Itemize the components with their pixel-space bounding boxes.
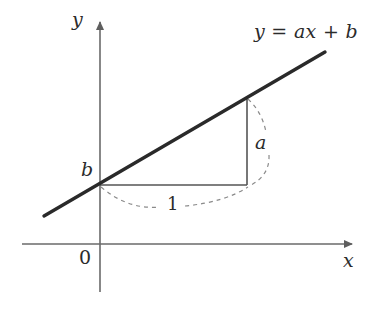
- rise-measure-arc-bottom: [249, 155, 269, 186]
- run-measure-arc-left: [101, 187, 160, 207]
- run-label: 1: [167, 195, 178, 213]
- equation-label: y = ax + b: [254, 22, 358, 41]
- figure-canvas: [0, 0, 377, 314]
- math-figure: y x 0 b a 1 y = ax + b: [0, 0, 377, 314]
- origin-label: 0: [79, 248, 91, 267]
- rise-measure-arc-top: [248, 99, 266, 132]
- y-axis-label: y: [72, 10, 83, 29]
- plotted-line: [44, 52, 325, 216]
- y-intercept-label: b: [81, 160, 93, 179]
- x-axis-label: x: [343, 251, 354, 270]
- rise-label: a: [255, 133, 266, 152]
- run-measure-arc-right: [185, 187, 248, 206]
